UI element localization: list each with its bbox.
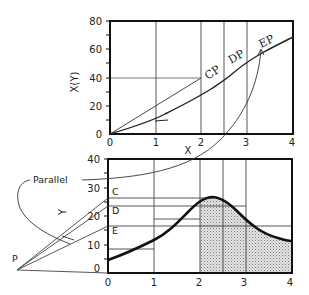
bottom-ytick-30: 30: [87, 183, 100, 194]
bottom-xtick-3: 3: [241, 277, 247, 288]
top-xtick-3: 3: [243, 137, 249, 148]
top-cumulative-curve: [110, 37, 293, 134]
bottom-y-axis-label: Y: [57, 208, 68, 216]
top-arrow-icon: [155, 120, 168, 121]
top-xtick-4: 4: [289, 137, 295, 148]
label-p: P: [12, 253, 18, 264]
top-y-axis-label: X(Y): [69, 72, 80, 93]
top-ytick-20: 20: [89, 101, 102, 112]
bottom-xtick-2: 2: [196, 277, 202, 288]
top-straight-line: [110, 78, 201, 134]
label-ep: EP: [257, 32, 277, 51]
label-c: C: [112, 186, 119, 197]
label-parallel: Parallel: [33, 174, 68, 185]
bottom-ytick-10: 10: [87, 240, 100, 251]
top-xtick-2: 2: [198, 137, 204, 148]
label-e: E: [112, 225, 118, 236]
bottom-xtick-4: 4: [287, 277, 293, 288]
top-xtick-1: 1: [153, 137, 159, 148]
top-xtick-0: 0: [107, 137, 113, 148]
top-x-axis-label: X: [185, 145, 192, 156]
top-ytick-60: 60: [89, 44, 102, 55]
label-d: D: [112, 205, 119, 216]
diagram-canvas: 80 60 40 20 0 0 1 2 3 4 X(Y) X CP DP EP: [0, 0, 309, 295]
bottom-ytick-40: 40: [87, 154, 100, 165]
bottom-xtick-0: 0: [105, 277, 111, 288]
top-ytick-80: 80: [89, 16, 102, 27]
label-cp: CP: [202, 62, 223, 82]
top-ytick-0: 0: [96, 129, 102, 140]
top-gridlines: [110, 21, 247, 134]
top-plot: 80 60 40 20 0 0 1 2 3 4 X(Y) X CP DP EP: [69, 16, 295, 156]
parallel-tick: [62, 236, 74, 240]
label-dp: DP: [226, 47, 247, 67]
top-ytick-40: 40: [89, 73, 102, 84]
bottom-xtick-1: 1: [151, 277, 157, 288]
